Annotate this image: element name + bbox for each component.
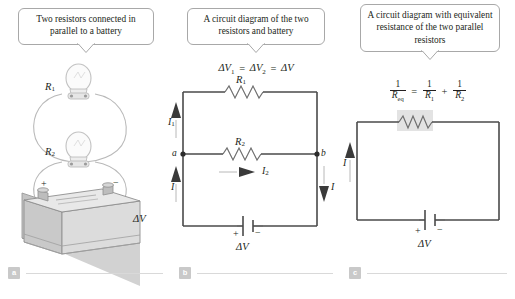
label-node-b: b [321,148,326,158]
label-dv-a: ΔV [133,213,146,224]
label-i-left-c: I [343,157,346,168]
label-r1-a: R1 [45,81,55,93]
label-r2-a: R2 [45,146,55,158]
node-b-dot [314,151,319,156]
bulb-r2 [66,132,91,167]
label-minus-a: − [113,177,119,188]
frac-r2-num: 1 [453,80,466,90]
label-minus-c: − [437,224,443,235]
parallel-resistors-figure: Two resistors connected in parallel to a… [0,0,515,299]
callout-b: A circuit diagram of the two resistors a… [187,8,325,45]
label-minus-b: − [255,227,261,238]
label-i-left-b: I [171,181,174,192]
callout-c-text: A circuit diagram with equivalent resist… [368,10,493,45]
panel-c: A circuit diagram with equivalent resist… [341,0,515,299]
label-node-a: a [172,148,177,158]
panel-a-footer: a [8,267,163,279]
frac-r2: 1 R2 [453,80,466,103]
frac-r2-den: R2 [453,90,466,103]
label-i-right-b: I [331,181,334,192]
label-i2-b: I2 [262,165,269,177]
callout-c: A circuit diagram with equivalent resist… [360,4,500,52]
panel-b: A circuit diagram of the two resistors a… [171,0,341,299]
frac-req: 1 Req [390,80,406,103]
panel-a-illustration [0,58,171,258]
label-plus-a: + [41,178,47,189]
panel-a-tag: a [8,267,20,279]
label-dv-b: ΔV [236,241,249,252]
frac-r1: 1 R1 [423,80,436,103]
label-i1-b: I1 [168,116,175,128]
frac-r1-num: 1 [423,80,436,90]
equation-c: 1 Req = 1 R1 + 1 R2 [341,80,515,103]
equals-sign-c: = [408,86,420,97]
panel-c-tag: c [349,267,361,279]
callout-a-text: Two resistors connected in parallel to a… [36,14,135,36]
label-plus-c: + [415,225,421,236]
callout-a-tail [77,43,95,53]
panel-c-footer: c [349,267,507,279]
current-arrow-i2 [219,167,255,177]
callout-c-tail [421,50,439,60]
panel-c-circuit [341,108,515,248]
frac-req-den: Req [390,90,406,103]
label-plus-b: + [233,228,239,239]
current-arrow-i-right [319,166,329,202]
panel-b-rule [197,273,333,274]
panel-a-rule [26,273,163,274]
bulb-r1 [66,64,91,99]
panel-a: Two resistors connected in parallel to a… [0,0,171,299]
panel-b-tag: b [179,267,191,279]
panel-b-footer: b [179,267,333,279]
label-r1-b: R1 [236,74,246,86]
equation-b: ΔV1 = ΔV2 = ΔV [171,62,341,76]
node-a-dot [180,151,185,156]
label-dv-c: ΔV [418,238,431,249]
current-arrow-i-left-c [345,142,355,182]
label-r2-b: R2 [235,136,245,148]
plus-sign-c: + [439,86,451,97]
panel-b-circuit [171,76,341,246]
callout-b-tail [247,43,265,53]
callout-a: Two resistors connected in parallel to a… [18,8,154,45]
frac-r1-den: R1 [423,90,436,103]
frac-req-num: 1 [390,80,406,90]
panel-c-rule [367,273,507,274]
callout-b-text: A circuit diagram of the two resistors a… [203,14,308,36]
